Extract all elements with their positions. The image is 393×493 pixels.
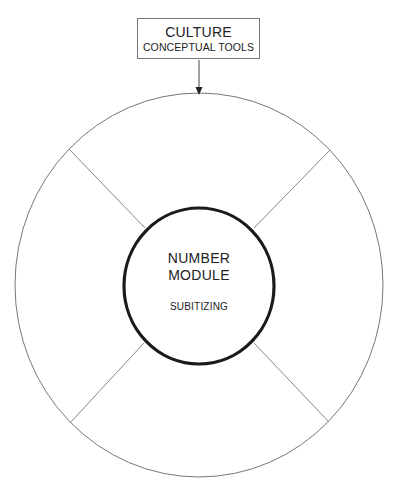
culture-subtitle: CONCEPTUAL TOOLS [143, 40, 254, 54]
arrow-head-icon [196, 87, 203, 95]
module-subtitle: SUBITIZING [170, 301, 228, 312]
module-title-line1: NUMBER [168, 250, 230, 267]
culture-box: CULTURE CONCEPTUAL TOOLS [137, 18, 260, 59]
number-module-label: NUMBER MODULE SUBITIZING [124, 208, 274, 364]
module-title: NUMBER MODULE [168, 250, 230, 284]
culture-title: CULTURE [165, 24, 231, 40]
module-title-line2: MODULE [168, 267, 230, 284]
